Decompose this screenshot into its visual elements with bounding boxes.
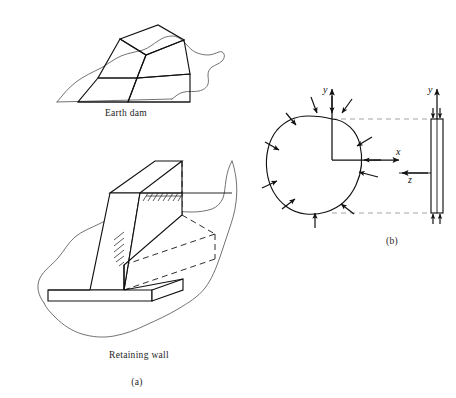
earth-dam-left-toe-face [78,78,137,102]
y-axis-right-label: y [428,84,432,95]
figure-canvas [0,0,456,398]
earth-dam-crest-face [120,25,184,55]
cross-section-boundary [266,116,361,214]
load-arrow-11 [341,204,354,214]
load-arrow-3 [342,99,352,113]
load-arrow-2 [311,97,317,113]
figure-root: Earth dam Retaining wall (a) (b) y x z y [0,0,456,398]
cross-section-drawing [262,89,443,228]
retaining-wall-drawing [38,161,237,337]
load-arrow-8 [359,172,378,177]
panel-a-caption: (a) [117,377,157,387]
panel-b-caption: (b) [372,236,412,246]
retaining-wall-hidden-heel-top [182,215,215,234]
x-axis-label: x [396,146,400,157]
earth-dam-downstream-face [137,40,190,78]
edge-view-slab [431,108,443,224]
earth-dam-caption: Earth dam [96,108,156,118]
retaining-wall-caption: Retaining wall [96,350,182,360]
retaining-wall-base-front-face [48,290,152,301]
z-axis-label: z [408,174,412,185]
earth-dam-right-toe-face [128,74,190,102]
y-axis-left-label: y [323,84,327,95]
earth-dam-drawing [57,25,224,102]
retaining-wall-stem-top-cap [110,161,182,193]
